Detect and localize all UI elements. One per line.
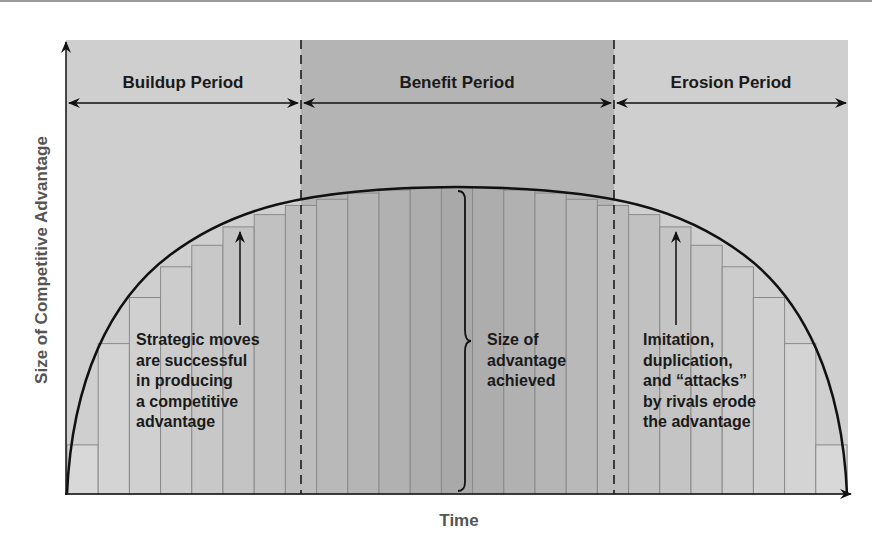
x-axis-label: Time [439,511,478,531]
bar [597,205,628,494]
bar [98,344,129,494]
benefit-period-label: Benefit Period [399,73,514,93]
buildup-period-label: Buildup Period [123,73,244,93]
erosion-period-label: Erosion Period [671,73,792,93]
erosion-annotation: Imitation, duplication, and “attacks” by… [643,330,756,433]
y-axis-label: Size of Competitive Advantage [32,136,52,384]
benefit-annotation: Size of advantage achieved [487,330,566,392]
bar [566,199,597,494]
bar [785,344,816,494]
buildup-annotation: Strategic moves are successful in produc… [136,330,260,433]
bar [410,187,441,494]
bar [317,199,348,494]
bar [348,193,379,494]
bar [753,298,784,495]
bar [379,190,410,494]
